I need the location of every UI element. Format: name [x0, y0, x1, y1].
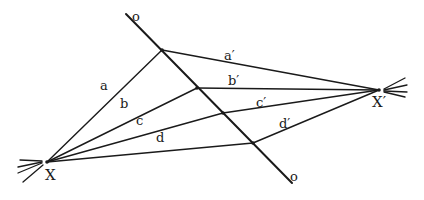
label-c: c: [136, 113, 143, 128]
label-d: d: [156, 130, 164, 145]
label-c-prime: c′: [256, 95, 266, 110]
ray-c-prime: [223, 90, 379, 113]
perspective-diagram: o o X X′ a b c d a′ b′ c′ d′: [0, 0, 424, 200]
label-o-bottom: o: [290, 169, 298, 184]
point-d: [251, 141, 255, 145]
point-c: [221, 111, 225, 115]
point-x: [45, 160, 49, 164]
x-prime-ray-stubs: [384, 78, 407, 97]
label-o-top: o: [132, 9, 140, 24]
point-b: [195, 86, 199, 90]
label-b: b: [120, 96, 128, 111]
ray-b-prime: [197, 88, 379, 90]
x-ray-stubs: [18, 160, 43, 182]
label-a-prime: a′: [224, 48, 235, 63]
ray-d: [47, 143, 253, 162]
point-x-prime: [377, 88, 381, 92]
diagram-svg: o o X X′ a b c d a′ b′ c′ d′: [0, 0, 424, 200]
ray-c: [47, 113, 223, 162]
transversal-line-o: [126, 14, 292, 183]
label-d-prime: d′: [279, 116, 290, 131]
ray-a: [47, 50, 162, 162]
label-a: a: [100, 78, 108, 93]
label-x-prime: X′: [372, 93, 387, 111]
label-b-prime: b′: [228, 73, 239, 88]
point-a: [160, 48, 164, 52]
ray-d-prime: [253, 90, 379, 143]
label-x: X: [45, 166, 56, 184]
